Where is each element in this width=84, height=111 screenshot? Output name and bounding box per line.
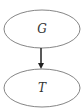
node-t: T <box>4 69 80 107</box>
edge-g-to-t <box>38 48 44 69</box>
node-g: G <box>4 10 80 48</box>
node-g-label: G <box>37 22 47 36</box>
arrowhead-icon <box>38 63 44 69</box>
diagram-canvas: G T <box>0 0 84 111</box>
node-t-label: T <box>38 81 47 95</box>
